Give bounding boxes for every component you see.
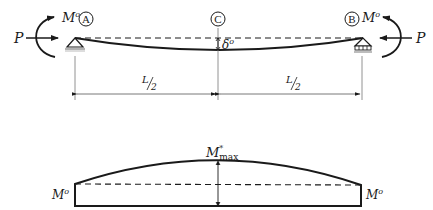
moment-right-label: Mo [361, 10, 380, 25]
axial-force-left-label: P [13, 30, 24, 46]
point-c-marker: C [211, 12, 225, 26]
moment-left-arrow [36, 17, 55, 57]
span-dimensions: L 2 L 2 [75, 56, 362, 100]
svg-text:L: L [285, 74, 293, 85]
axial-force-right-label: P [415, 30, 426, 46]
end-moment-left-label: Mo [51, 187, 69, 202]
svg-text:2: 2 [150, 82, 157, 92]
max-moment-label: M*max [205, 144, 238, 162]
svg-text:A: A [82, 13, 90, 25]
moment-diagram: M*max Mo Mo [51, 144, 383, 206]
svg-text:B: B [348, 13, 355, 25]
dimension-right-label: L 2 [285, 74, 301, 92]
end-moment-right-label: Mo [365, 187, 383, 202]
beam-column-diagram: P Mo A B Mo P C δo [0, 0, 433, 210]
roller-support-icon [354, 38, 372, 52]
point-a-marker: A [79, 12, 93, 26]
point-b-marker: B [345, 12, 359, 26]
moment-right-arrow [382, 17, 401, 57]
dimension-left-label: L 2 [141, 74, 157, 92]
svg-text:L: L [141, 74, 149, 85]
svg-text:C: C [214, 13, 221, 25]
svg-text:2: 2 [294, 82, 301, 92]
moment-left-label: Mo [61, 10, 80, 25]
